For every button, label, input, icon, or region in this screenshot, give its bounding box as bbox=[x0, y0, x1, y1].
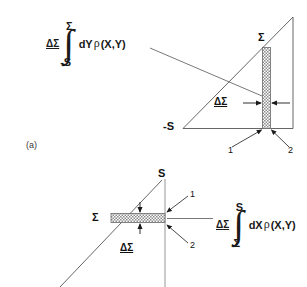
upper-callout-arrow-1 bbox=[232, 130, 262, 147]
lower-callout-arrow-2 bbox=[167, 225, 188, 243]
lower-top-s-label: S bbox=[158, 168, 165, 179]
lower-callout-arrow-1 bbox=[167, 196, 188, 212]
figure-root: Σ -S ΔΣ 1 2 ΔΣ Σ ∫ -S dY ρ (X,Y) (a) S Σ… bbox=[0, 0, 307, 287]
lower-diagonal bbox=[60, 180, 162, 287]
lower-integral-density-symbol: ρ bbox=[263, 217, 271, 232]
upper-integral-sign-group: Σ ∫ -S bbox=[63, 30, 73, 57]
upper-apex-sigma-label: Σ bbox=[258, 32, 265, 43]
lower-integral-differential: dX bbox=[249, 219, 263, 231]
upper-hatched-strip bbox=[263, 48, 271, 129]
lower-integral-expression: ΔΣ S ∫ Σ dX ρ (X,Y) bbox=[216, 211, 296, 238]
lower-integral-sign-group: S ∫ Σ bbox=[233, 211, 243, 238]
integral-sign-icon: ∫ bbox=[63, 30, 73, 57]
upper-diagonal bbox=[183, 17, 293, 129]
lower-integral-arguments: (X,Y) bbox=[271, 219, 296, 231]
upper-expression-leader bbox=[150, 48, 262, 96]
lower-integral-lower-limit: Σ bbox=[233, 237, 240, 249]
upper-integral-arguments: (X,Y) bbox=[101, 38, 126, 50]
upper-edge-label-2: 2 bbox=[288, 146, 293, 155]
upper-edge-label-1: 1 bbox=[228, 146, 233, 155]
panel-label: (a) bbox=[26, 141, 37, 150]
integral-sign-icon: ∫ bbox=[233, 211, 243, 238]
lower-strip-thickness-label: ΔΣ bbox=[120, 243, 133, 253]
upper-origin-label: -S bbox=[163, 121, 174, 132]
upper-integral-upper-limit: Σ bbox=[66, 20, 73, 32]
lower-hatched-strip bbox=[111, 214, 165, 223]
upper-strip-width-label: ΔΣ bbox=[214, 97, 227, 107]
upper-integral-differential: dY bbox=[79, 38, 93, 50]
lower-integral-upper-limit: S bbox=[236, 201, 243, 213]
upper-integral-density-symbol: ρ bbox=[93, 36, 101, 51]
upper-expression-prefix: ΔΣ bbox=[46, 38, 59, 49]
lower-edge-label-1: 1 bbox=[190, 190, 195, 199]
lower-expression-prefix: ΔΣ bbox=[216, 219, 229, 230]
lower-edge-label-2: 2 bbox=[190, 241, 195, 250]
upper-integral-lower-limit: -S bbox=[60, 56, 71, 68]
upper-callout-arrow-2 bbox=[272, 130, 290, 147]
upper-integral-expression: ΔΣ Σ ∫ -S dY ρ (X,Y) bbox=[46, 30, 126, 57]
lower-left-sigma-label: Σ bbox=[92, 212, 99, 223]
